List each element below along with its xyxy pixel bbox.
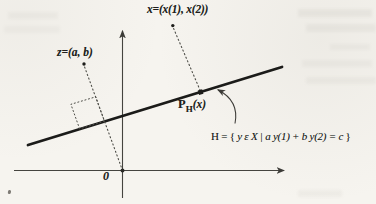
x-point-label: x=(x(1), x(2)) bbox=[147, 3, 208, 15]
projection-label: PH(x) bbox=[178, 97, 206, 112]
hyperplane-set-label: H = { y ε X | a y(1) + b y(2) = c } bbox=[211, 130, 351, 142]
point-x bbox=[171, 24, 174, 27]
point-z bbox=[82, 62, 85, 65]
projection-base: P bbox=[178, 97, 186, 111]
z-point-label: z=(a, b) bbox=[57, 46, 93, 58]
hset-symbol: H bbox=[211, 130, 219, 142]
projection-argument: (x) bbox=[193, 98, 206, 110]
hset-close-brace: } bbox=[343, 130, 351, 142]
hyperplane-pointer-arrow bbox=[218, 90, 236, 124]
scanned-figure-page: x=(x(1), x(2)) z=(a, b) 0 PH(x) H = { y … bbox=[0, 0, 376, 204]
projection-dotted-line bbox=[174, 29, 200, 91]
origin-label: 0 bbox=[103, 169, 109, 184]
projection-subscript: H bbox=[186, 104, 193, 114]
hset-equals-brace: = { bbox=[219, 130, 237, 142]
hset-condition: y ε X | a y(1) + b y(2) = c bbox=[237, 130, 343, 142]
origin-point bbox=[121, 169, 125, 173]
